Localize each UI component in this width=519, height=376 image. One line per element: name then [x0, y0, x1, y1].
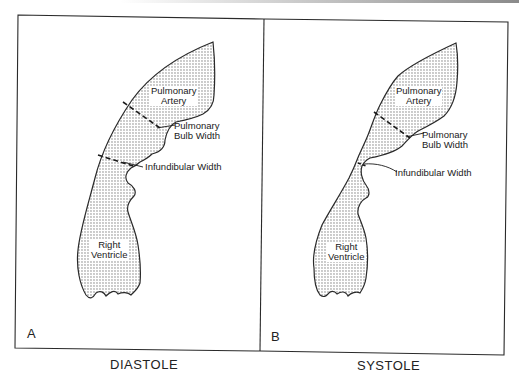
- label-line: Ventricle: [328, 252, 364, 262]
- label-line: Ventricle: [91, 250, 127, 260]
- panel-a-letter: A: [27, 326, 36, 341]
- systole-right-ventricle-label: Right Ventricle: [327, 242, 365, 262]
- systole-infundibular-width-label: Infundibular Width: [395, 168, 472, 178]
- label-line: Bulb Width: [174, 131, 220, 141]
- label-line: Bulb Width: [422, 140, 468, 150]
- label-line: Artery: [396, 96, 441, 106]
- label-line: Artery: [151, 96, 196, 106]
- systole-pulmonary-artery-label: Pulmonary Artery: [395, 86, 442, 106]
- diastole-bulb-width-label: Pulmonary Bulb Width: [174, 121, 220, 141]
- systole-caption: SYSTOLE: [357, 358, 420, 373]
- diastole-right-ventricle-label: Right Ventricle: [90, 240, 128, 260]
- diastole-caption: DIASTOLE: [110, 357, 178, 372]
- diastole-infundibular-width-label: Infundibular Width: [145, 162, 222, 172]
- systole-bulb-width-label: Pulmonary Bulb Width: [422, 130, 468, 150]
- panel-divider: [260, 19, 264, 351]
- panel-b-letter: B: [271, 329, 280, 344]
- diastole-pulmonary-artery-label: Pulmonary Artery: [150, 86, 197, 106]
- systole-infundibular-leader: [364, 164, 397, 172]
- figure-canvas: [0, 0, 519, 376]
